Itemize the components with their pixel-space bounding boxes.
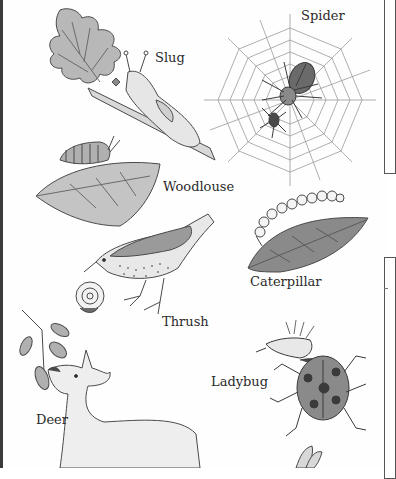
caterpillar-drawing [248, 191, 368, 272]
label-caterpillar: Caterpillar [250, 274, 322, 289]
label-spider: Spider [301, 8, 345, 23]
label-woodlouse: Woodlouse [163, 179, 234, 194]
label-deer: Deer [36, 412, 68, 427]
label-thrush: Thrush [162, 314, 209, 329]
label-slug: Slug [155, 50, 185, 65]
thrush-drawing [76, 214, 214, 314]
ladybug-drawing [256, 320, 366, 436]
deer-drawing [17, 310, 200, 468]
label-ladybug: Ladybug [211, 374, 268, 389]
woodlouse-drawing [36, 136, 160, 226]
bottom-plant-drawing [296, 446, 322, 468]
slug-drawing [50, 9, 215, 160]
